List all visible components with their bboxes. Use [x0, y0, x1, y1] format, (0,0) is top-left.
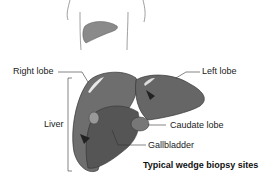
label-gallbladder: Gallbladder — [148, 140, 194, 150]
liver-illustration — [0, 0, 268, 185]
label-liver: Liver — [44, 119, 64, 129]
gallbladder-shape — [89, 112, 99, 124]
liver-diagram: Right lobe Left lobe Liver Caudate lobe … — [0, 0, 268, 185]
label-right-lobe: Right lobe — [13, 66, 54, 76]
label-caudate-lobe: Caudate lobe — [170, 120, 224, 130]
label-left-lobe: Left lobe — [202, 66, 237, 76]
liver-bracket — [68, 78, 72, 171]
left-lobe-shape — [136, 75, 205, 120]
caudate-lobe-shape — [131, 117, 149, 131]
caption: Typical wedge biopsy sites — [143, 160, 258, 170]
torso-liver-icon — [83, 22, 118, 44]
